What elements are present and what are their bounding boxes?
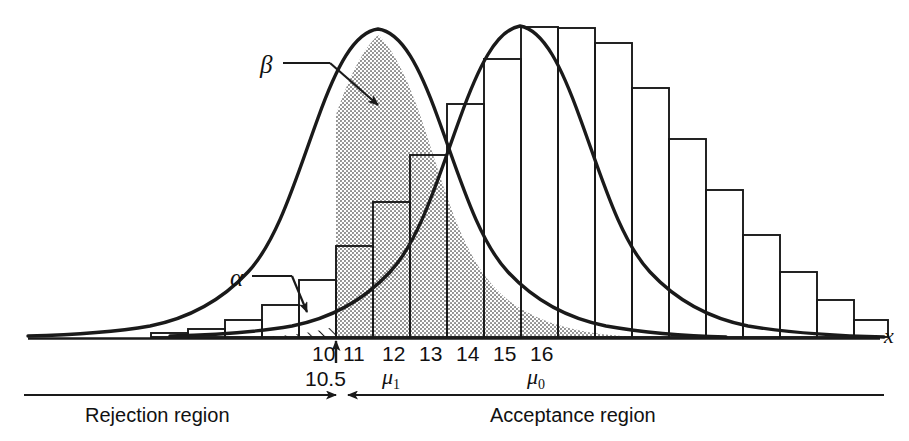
mu0-glyph: μ bbox=[527, 364, 538, 389]
tick-label-13: 13 bbox=[419, 343, 442, 364]
rejection-region-label: Rejection region bbox=[85, 405, 230, 425]
alpha-label: α bbox=[230, 265, 243, 290]
tick-label-11: 11 bbox=[343, 343, 365, 364]
critical-value-label: 10.5 bbox=[305, 368, 346, 389]
x-axis-label: x bbox=[884, 325, 894, 347]
tick-label-10: 10 bbox=[312, 343, 335, 364]
mu1-glyph: μ bbox=[382, 364, 393, 389]
figure-canvas: β α 10 11 12 13 14 15 16 10.5 μ1 μ0 x Re… bbox=[0, 0, 909, 441]
tick-label-12: 12 bbox=[382, 343, 405, 364]
mu1-subscript: 1 bbox=[393, 377, 400, 392]
mu0-label: μ0 bbox=[527, 366, 545, 392]
tick-label-16: 16 bbox=[530, 343, 553, 364]
mu1-label: μ1 bbox=[382, 366, 400, 392]
acceptance-region-label: Acceptance region bbox=[490, 405, 656, 425]
tick-label-14: 14 bbox=[456, 343, 479, 364]
beta-label: β bbox=[260, 52, 272, 77]
mu0-subscript: 0 bbox=[538, 377, 545, 392]
distribution-plot bbox=[0, 0, 909, 441]
tick-label-15: 15 bbox=[493, 343, 516, 364]
